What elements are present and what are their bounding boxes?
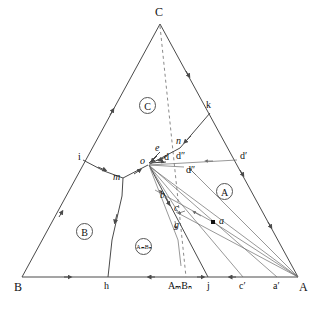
axis-label-h: h bbox=[104, 281, 109, 291]
point-label-e: e bbox=[155, 143, 159, 153]
region-label-ambn: AₘBₙ bbox=[135, 238, 152, 255]
tie-a-to-d2b bbox=[189, 168, 298, 277]
region-label-b: B bbox=[76, 223, 93, 240]
point-label-d-double-prime-lower: d″ bbox=[186, 165, 195, 175]
arrow-tie-c-left bbox=[179, 211, 185, 213]
triangle-outline bbox=[22, 24, 298, 277]
axis-label-a: A bbox=[299, 281, 308, 293]
point-label-n: n bbox=[176, 136, 181, 146]
arrow-edge-bc-upper bbox=[110, 110, 113, 115]
point-label-d-double-prime-upper: d″ bbox=[176, 151, 185, 161]
axis-label-c-prime: c′ bbox=[239, 281, 246, 291]
point-label-d-prime: d′ bbox=[240, 151, 247, 161]
arrow-o-j-down bbox=[165, 197, 169, 204]
vertex-label-c: C bbox=[155, 6, 163, 18]
point-label-a: a bbox=[219, 216, 224, 226]
arrow-d-cluster bbox=[157, 160, 163, 162]
region-label-a: A bbox=[216, 183, 233, 200]
boundary-m-o bbox=[123, 165, 148, 178]
axis-label-a-prime: a′ bbox=[273, 281, 280, 291]
edge-direction-arrows bbox=[59, 71, 271, 277]
marker-point-a bbox=[211, 220, 215, 224]
arrow-k-n bbox=[185, 136, 191, 142]
point-label-c: c bbox=[174, 203, 178, 213]
figure-bottom-margin bbox=[0, 305, 327, 311]
tie-o-d2 bbox=[149, 165, 184, 167]
d-cluster-arrows bbox=[157, 160, 163, 162]
arrow-edge-ca-lower bbox=[268, 222, 271, 227]
boundary-m-h bbox=[108, 178, 123, 277]
axis-label-ambn: AₘBₙ bbox=[168, 281, 192, 291]
point-label-k: k bbox=[206, 100, 211, 110]
point-label-i: i bbox=[78, 152, 81, 162]
arrow-edge-bc-lower bbox=[59, 212, 62, 217]
region-label-c: C bbox=[139, 97, 156, 114]
point-label-g: g bbox=[174, 220, 179, 230]
point-label-o: o bbox=[140, 156, 145, 166]
boundary-o-d bbox=[149, 162, 166, 163]
axis-label-j: j bbox=[207, 281, 210, 291]
arrow-tie-a-left bbox=[194, 212, 201, 216]
tie-a-to-c bbox=[176, 212, 298, 277]
axis-label-b: B bbox=[14, 281, 22, 293]
point-label-b: b bbox=[160, 190, 165, 200]
ternary-phase-diagram: C C A B AₘBₙ i m o e n k d d″ d″ d′ b c … bbox=[0, 0, 327, 311]
point-label-m: m bbox=[113, 172, 120, 182]
point-label-d: d bbox=[164, 152, 169, 162]
